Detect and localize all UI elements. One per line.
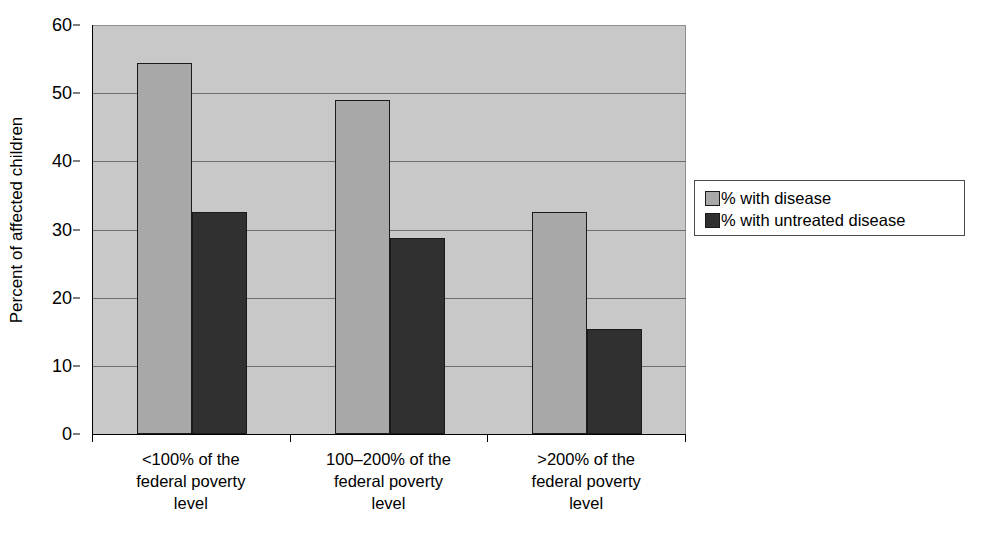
x-axis-tick-mark [290,434,291,442]
y-axis-tick-mark [73,297,80,298]
y-axis-tick-label: 10 [52,357,72,375]
y-axis-tick-label: 60 [52,16,72,34]
x-axis-category-label-line: level [487,492,685,514]
chart-legend: % with disease% with untreated disease [694,180,965,236]
x-axis-tick-marks [92,434,686,442]
x-axis-category-label-line: >200% of the [487,448,685,470]
bar [137,63,192,435]
y-axis-title-text: Percent of affected children [7,117,27,324]
legend-swatch-icon [705,191,720,206]
y-axis-tick-label: 0 [62,425,72,443]
y-axis-title: Percent of affected children [0,0,34,440]
bar [390,238,445,434]
x-axis-category-label-line: level [290,492,488,514]
x-axis-category-label-line: <100% of the [92,448,290,470]
x-axis-tick-mark [92,434,93,442]
x-axis-category-label: >200% of thefederal povertylevel [487,448,685,514]
x-axis-category-labels: <100% of thefederal povertylevel100–200%… [92,448,686,528]
y-axis-tick-mark [73,161,80,162]
bar [335,100,390,434]
y-axis-tick-labels: 0102030405060 [34,25,80,434]
legend-label: % with disease [721,190,831,207]
legend-label: % with untreated disease [721,212,905,229]
y-axis-tick-label: 30 [52,221,72,239]
plot-top-edge [93,25,686,26]
x-axis-category-label-line: federal poverty [92,470,290,492]
y-axis-tick-mark [73,25,80,26]
x-axis-category-label: 100–200% of thefederal povertylevel [290,448,488,514]
bar [587,329,642,434]
x-axis-category-label-line: federal poverty [290,470,488,492]
y-axis-tick-mark [73,365,80,366]
x-axis-tick-mark [487,434,488,442]
y-axis-tick-mark [73,229,80,230]
bar [532,212,587,434]
x-axis-category-label: <100% of thefederal povertylevel [92,448,290,514]
x-axis-tick-mark [685,434,686,442]
legend-entry: % with disease [705,187,964,209]
bar [192,212,247,434]
legend-entry: % with untreated disease [705,209,964,231]
y-axis-tick-label: 40 [52,152,72,170]
y-axis-tick-label: 20 [52,289,72,307]
plot-area [92,25,686,435]
legend-swatch-icon [705,213,720,228]
y-axis-tick-label: 50 [52,84,72,102]
x-axis-category-label-line: federal poverty [487,470,685,492]
y-axis-tick-mark [73,93,80,94]
x-axis-category-label-line: level [92,492,290,514]
x-axis-category-label-line: 100–200% of the [290,448,488,470]
y-axis-tick-mark [73,434,80,435]
